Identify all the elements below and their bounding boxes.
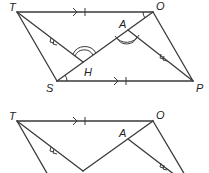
segment-TS xyxy=(17,12,57,81)
vertex-label-T: T xyxy=(9,110,17,122)
vertex-label-T: T xyxy=(9,1,17,13)
angle-arc-icon xyxy=(143,12,145,18)
vertex-label-O: O xyxy=(156,109,165,121)
angle-arc-icon xyxy=(65,75,67,81)
geometry-figure: T O S P A H T O A xyxy=(0,0,209,173)
vertex-label-A: A xyxy=(118,127,126,139)
segment-OP xyxy=(153,121,185,173)
parallelogram-diagram-bottom: T O A xyxy=(9,109,185,173)
vertex-label-O: O xyxy=(156,0,165,12)
segment-HO xyxy=(83,121,153,171)
segment-TH xyxy=(17,12,83,62)
diagonal-SO xyxy=(57,12,153,81)
angle-arc-double-icon xyxy=(73,47,96,56)
vertex-label-H: H xyxy=(84,66,92,78)
vertex-label-A: A xyxy=(118,18,126,30)
vertex-label-S: S xyxy=(46,82,54,94)
segment-TH xyxy=(17,121,83,171)
parallelogram-diagram-top: T O S P A H xyxy=(9,0,204,94)
vertex-label-P: P xyxy=(196,82,204,94)
segment-TS xyxy=(17,121,48,173)
segment-AP xyxy=(128,139,175,173)
segment-OP xyxy=(153,12,193,81)
double-arrow-icon xyxy=(160,163,167,170)
